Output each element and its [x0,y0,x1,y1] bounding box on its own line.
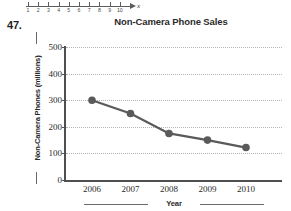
x-axis-rule-right [200,204,264,205]
y-axis-leader-bottom [36,172,37,184]
y-axis-tick-label: 300 [40,95,62,105]
x-axis-spine [64,180,282,182]
data-point-marker [127,110,135,118]
y-axis-tick [62,100,65,101]
series-line [92,100,246,147]
x-axis-title: Year [162,198,186,209]
number-line-tick-label: 10 [114,7,126,14]
x-axis-title-block: Year [66,198,282,209]
y-axis-tick-label: 200 [40,122,62,132]
chart-figure: Non-Camera Phone Sales Non-Camera Phones… [0,14,291,211]
y-axis-tick [62,74,65,75]
number-line-x-axis-label: x [137,1,140,11]
x-axis-tick-label: 2006 [72,184,112,195]
data-point-marker [88,96,96,104]
chart-title: Non-Camera Phone Sales [60,16,282,27]
y-axis-tick [62,153,65,154]
number-line-arrow-icon [130,3,136,9]
y-axis-leader-top [36,32,37,44]
x-axis-tick-label: 2008 [149,184,189,195]
y-axis-tick-label: 100 [40,148,62,158]
y-axis-tick-label: 500 [40,42,62,52]
plot-area [66,47,282,180]
y-axis-tick [62,127,65,128]
x-axis-tick-label: 2010 [226,184,266,195]
data-series [66,47,282,180]
x-axis-tick-labels: 20062007200820092010 [66,184,282,196]
y-axis-tick-labels: 0100200300400500 [40,47,62,180]
x-axis-rule-left [84,204,148,205]
data-point-marker [204,136,212,144]
data-point-marker [165,130,173,138]
x-axis-tick-label: 2009 [188,184,228,195]
data-point-marker [242,144,250,152]
y-axis-tick-label: 400 [40,69,62,79]
y-axis-tick-label: 0 [40,175,62,185]
x-axis-tick-label: 2007 [111,184,151,195]
number-line-previous-problem: 12345678910 x [26,1,142,15]
y-axis-tick [62,47,65,48]
